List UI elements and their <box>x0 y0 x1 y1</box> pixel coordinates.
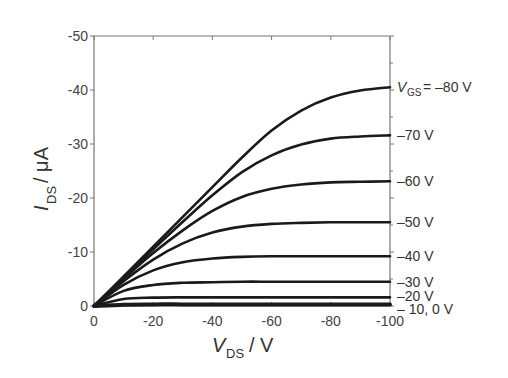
y-axis-title-unit: / μA <box>30 146 52 183</box>
x-axis-title-main: V <box>212 334 227 356</box>
x-axis-title-sub: DS <box>226 346 244 361</box>
x-tick-label: -80 <box>321 313 341 329</box>
curve-label: = –80 V <box>423 79 472 95</box>
iv-curve <box>94 282 390 306</box>
y-tick-label: -30 <box>68 136 88 152</box>
curve-label: –50 V <box>397 214 434 230</box>
y-axis-title-main: I <box>30 205 52 211</box>
y-tick-label: -20 <box>68 190 88 206</box>
curve-labels: VGS= –80 V–70 V–60 V–50 V–40 V–30 V–20 V… <box>397 79 472 317</box>
curve-label: –30 V <box>397 274 434 290</box>
y-axis-title: I DS / μA <box>30 146 59 211</box>
curves <box>94 87 390 306</box>
curve-label: –40 V <box>397 248 434 264</box>
y-axis-title-sub: DS <box>44 186 59 204</box>
y-tick-label: -40 <box>68 82 88 98</box>
x-axis-title-unit: / V <box>249 334 274 356</box>
x-tick-label: 0 <box>90 313 98 329</box>
y-tick-label: 0 <box>80 298 88 314</box>
x-tick-label: -40 <box>202 313 222 329</box>
curve-label: –70 V <box>397 127 434 143</box>
iv-chart: 0-20-40-60-80-1000-10-20-30-40-50 VGS= –… <box>0 0 508 378</box>
x-tick-label: -60 <box>261 313 281 329</box>
iv-curve <box>94 304 390 306</box>
curve-label: –60 V <box>397 173 434 189</box>
y-tick-label: -10 <box>68 244 88 260</box>
y-tick-label: -50 <box>68 28 88 44</box>
curve-label-vgs-sub: GS <box>407 87 422 98</box>
curve-label: – 10, 0 V <box>397 301 454 317</box>
x-tick-label: -20 <box>143 313 163 329</box>
